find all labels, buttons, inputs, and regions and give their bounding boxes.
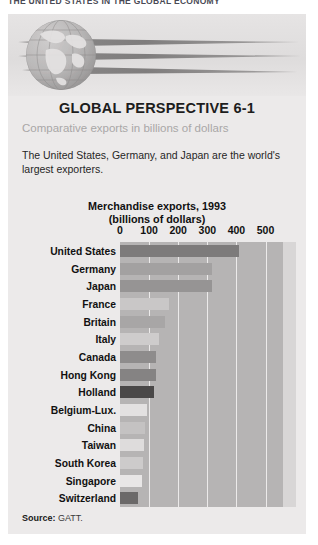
chart-plot-area xyxy=(120,242,296,507)
globe-icon xyxy=(26,20,96,90)
chart-category-labels: United StatesGermanyJapanFranceBritainIt… xyxy=(14,242,116,507)
chart-bar xyxy=(120,369,156,381)
chart-category-label: South Korea xyxy=(55,458,116,469)
chart-source: Source: GATT. xyxy=(22,513,83,523)
chart-bar xyxy=(120,351,156,363)
chart-category-label: Germany xyxy=(71,264,116,275)
chart-bar xyxy=(120,422,145,434)
chart-category-label: Britain xyxy=(83,317,116,328)
chart-bar xyxy=(120,457,143,469)
x-tick-label: 400 xyxy=(228,224,246,236)
chart-category-label: China xyxy=(87,423,116,434)
chart-title: Merchandise exports, 1993 (billions of d… xyxy=(8,200,306,225)
running-head: THE UNITED STATES IN THE GLOBAL ECONOMY xyxy=(8,0,308,8)
chart-x-axis-ticks: 0100200300400500 xyxy=(120,224,296,238)
panel-banner xyxy=(8,14,306,96)
chart-bar xyxy=(120,475,142,487)
chart-bar xyxy=(120,245,239,257)
chart-bar xyxy=(120,439,144,451)
chart-bar xyxy=(120,316,165,328)
x-tick-label: 100 xyxy=(140,224,158,236)
chart-plot-background-tail xyxy=(283,242,296,507)
chart-title-line1: Merchandise exports, 1993 xyxy=(88,200,226,212)
chart-bar xyxy=(120,333,159,345)
chart-category-label: Singapore xyxy=(66,476,116,487)
x-tick-label: 200 xyxy=(169,224,187,236)
panel-blurb: The United States, Germany, and Japan ar… xyxy=(22,149,294,176)
chart-category-label: United States xyxy=(50,246,116,257)
chart-category-label: Switzerland xyxy=(59,493,116,504)
gridline xyxy=(266,242,267,507)
chart-bar xyxy=(120,386,154,398)
panel-subtitle: Comparative exports in billions of dolla… xyxy=(22,122,302,134)
x-tick-label: 300 xyxy=(199,224,217,236)
chart-category-label: France xyxy=(82,299,116,310)
page-title: GLOBAL PERSPECTIVE 6-1 xyxy=(8,100,306,116)
chart-category-label: Japan xyxy=(86,281,116,292)
source-value: GATT. xyxy=(58,513,83,523)
chart-category-label: Holland xyxy=(78,387,116,398)
chart-category-label: Canada xyxy=(79,352,116,363)
global-perspective-panel: GLOBAL PERSPECTIVE 6-1 Comparative expor… xyxy=(8,14,306,534)
chart-bar xyxy=(120,263,212,275)
chart-category-label: Taiwan xyxy=(82,440,116,451)
gridline xyxy=(236,242,237,507)
x-tick-label: 500 xyxy=(257,224,275,236)
chart-category-label: Italy xyxy=(95,334,116,345)
chart-bar xyxy=(120,492,138,504)
chart-category-label: Hong Kong xyxy=(61,370,116,381)
chart-category-label: Belgium-Lux. xyxy=(51,405,116,416)
chart-bar xyxy=(120,280,212,292)
chart-bar xyxy=(120,298,169,310)
chart-bar xyxy=(120,404,147,416)
x-tick-label: 0 xyxy=(117,224,123,236)
source-label: Source: xyxy=(22,513,56,523)
